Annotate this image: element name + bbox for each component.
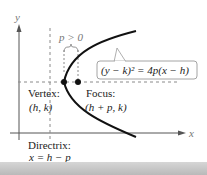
p-brace — [64, 44, 78, 52]
parabola-diagram: x y p > 0 (y − k)² = 4p(x − h) Vertex: (… — [0, 0, 207, 175]
bottom-band — [0, 162, 207, 175]
equation-text: (y − k)² = 4p(x − h) — [101, 64, 189, 77]
focus-point — [75, 79, 81, 85]
y-axis-label: y — [14, 11, 20, 23]
x-axis-arrow — [178, 131, 186, 136]
callout-pointer — [114, 48, 126, 62]
p-label: p > 0 — [58, 31, 83, 43]
focus-label: Focus: — [86, 87, 115, 99]
directrix-label: Directrix: — [28, 139, 71, 151]
focus-coords: (h + p, k) — [85, 101, 127, 114]
vertex-coords: (h, k) — [29, 101, 53, 114]
vertex-label: Vertex: — [28, 87, 60, 99]
y-axis-arrow — [17, 24, 22, 32]
vertex-point — [61, 79, 67, 85]
x-axis-label: x — [188, 127, 194, 139]
